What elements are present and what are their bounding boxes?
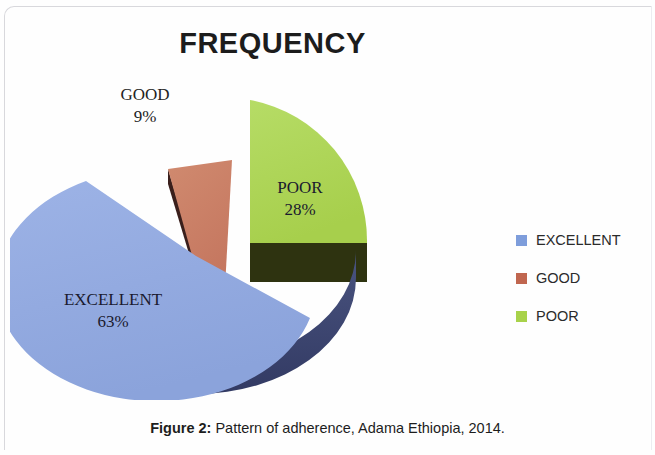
legend-item-poor[interactable]: POOR (516, 297, 646, 335)
pie-slice-poor-side (250, 243, 367, 282)
legend-swatch-poor (516, 311, 527, 322)
figure-page: FREQUENCY (0, 0, 655, 455)
label-excellent-pct: 63% (97, 312, 128, 331)
label-excellent-name: EXCELLENT (64, 290, 163, 309)
pie-chart: GOOD 9% POOR 28% EXCELLENT 63% (10, 60, 450, 400)
label-poor-pct: 28% (284, 200, 315, 219)
pie-slice-poor-top (250, 100, 367, 243)
label-good-name: GOOD (120, 85, 169, 104)
label-poor-name: POOR (277, 178, 323, 197)
legend-label-poor: POOR (536, 308, 579, 324)
figure-caption-label: Figure 2: (150, 420, 211, 436)
legend-label-excellent: EXCELLENT (536, 232, 621, 248)
pie-chart-svg: GOOD 9% POOR 28% EXCELLENT 63% (10, 60, 450, 400)
chart-title: FREQUENCY (0, 27, 545, 60)
legend-item-good[interactable]: GOOD (516, 259, 646, 297)
legend-item-excellent[interactable]: EXCELLENT (516, 221, 646, 259)
figure-caption: Figure 2: Pattern of adherence, Adama Et… (0, 420, 655, 436)
figure-caption-text: Pattern of adherence, Adama Ethiopia, 20… (211, 420, 504, 436)
legend-swatch-good (516, 273, 527, 284)
legend-label-good: GOOD (536, 270, 580, 286)
legend-swatch-excellent (516, 235, 527, 246)
chart-legend: EXCELLENT GOOD POOR (516, 221, 646, 335)
label-good-pct: 9% (134, 107, 157, 126)
